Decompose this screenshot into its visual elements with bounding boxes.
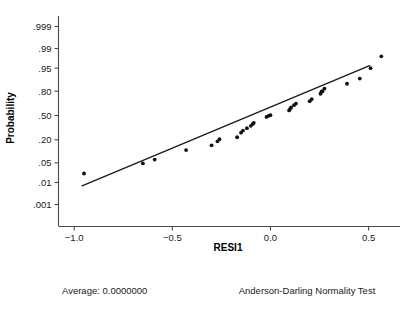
y-tick-label: .95 <box>38 63 51 74</box>
data-point <box>245 126 249 130</box>
y-axis-ticks: .999.99.95.80.50.20.05.01.001 <box>33 21 59 210</box>
y-tick-label: .999 <box>33 21 52 32</box>
ad-test-title: Anderson-Darling Normality Test <box>218 284 396 297</box>
data-points-group <box>82 54 383 175</box>
y-axis-title: Probability <box>5 92 16 144</box>
data-point <box>310 97 314 101</box>
y-tick-label: .01 <box>38 177 51 188</box>
anderson-darling-block: Anderson-Darling Normality Test A-Square… <box>218 258 396 311</box>
data-point <box>369 66 373 70</box>
data-point <box>235 135 239 139</box>
y-tick-label: .05 <box>38 157 51 168</box>
data-point <box>218 137 222 141</box>
axes-group <box>59 16 401 227</box>
x-axis-title: RESI1 <box>214 242 243 253</box>
reference-line <box>82 66 370 186</box>
data-point <box>184 148 188 152</box>
x-tick-label: 0.0 <box>264 232 277 243</box>
x-tick-label: −0.5 <box>163 232 182 243</box>
y-tick-label: .99 <box>38 43 51 54</box>
y-tick-label: .80 <box>38 86 51 97</box>
y-tick-label: .001 <box>33 199 52 210</box>
data-point <box>82 172 86 176</box>
data-point <box>379 54 383 58</box>
data-point <box>252 121 256 125</box>
average-stat: Average: 0.0000000 <box>62 284 147 297</box>
data-point <box>153 158 157 162</box>
data-point <box>210 143 214 147</box>
y-tick-label: .20 <box>38 134 51 145</box>
data-point <box>345 82 349 86</box>
x-tick-label: 0.5 <box>362 232 375 243</box>
y-tick-label: .50 <box>38 110 51 121</box>
data-point <box>269 113 273 117</box>
data-point <box>323 87 327 91</box>
x-axis-ticks: −1.0−0.50.00.5 <box>65 227 375 243</box>
data-point <box>141 162 145 166</box>
data-point <box>294 102 298 106</box>
normal-reference-line <box>82 66 370 186</box>
normal-probability-plot: .999.99.95.80.50.20.05.01.001 −1.0−0.50.… <box>0 0 406 311</box>
x-tick-label: −1.0 <box>65 232 84 243</box>
data-point <box>241 129 245 133</box>
summary-statistics-block: Average: 0.0000000 StDev: 0.350809 N: 32 <box>62 258 147 311</box>
data-point <box>358 77 362 81</box>
